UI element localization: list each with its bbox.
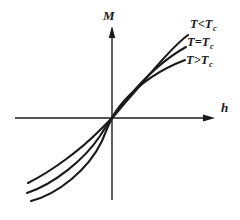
legend-label-t-equals-tc: T=T c — [187, 35, 214, 51]
svg-text:T=T: T=T — [187, 35, 211, 49]
vertical-axis-label: M — [102, 8, 115, 23]
curve-t-less-than-tc — [28, 35, 188, 183]
horizontal-axis-label: h — [221, 100, 228, 115]
svg-text:T>T: T>T — [186, 53, 210, 67]
vertical-axis-arrow-icon — [109, 26, 116, 38]
curve-t-equals-tc — [27, 47, 186, 193]
legend-label-t-less-than-tc: T<T c — [190, 17, 217, 33]
horizontal-axis-arrow-icon — [203, 115, 215, 122]
svg-text:c: c — [210, 41, 214, 51]
svg-text:T<T: T<T — [190, 17, 214, 31]
legend-label-t-greater-than-tc: T>T c — [186, 53, 213, 69]
svg-text:c: c — [213, 23, 217, 33]
magnetization-vs-field-figure: M h T<T c T=T c T>T c — [0, 0, 240, 220]
diagram-canvas: M h T<T c T=T c T>T c — [0, 0, 240, 220]
svg-text:c: c — [209, 59, 213, 69]
